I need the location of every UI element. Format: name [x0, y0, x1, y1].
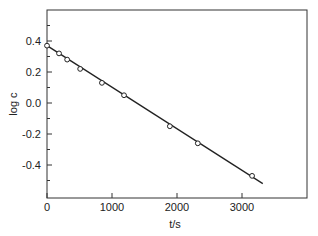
data-point	[195, 141, 200, 146]
y-axis-label: log c	[7, 92, 19, 116]
data-point	[78, 67, 83, 72]
x-tick-label: 3000	[230, 201, 254, 213]
y-tick-label: 0.0	[26, 97, 41, 109]
plot-border	[47, 10, 307, 198]
chart-container: 0.40.20.0-0.2-0.40100020003000 t/s log c	[0, 0, 318, 236]
y-tick-label: -0.2	[22, 128, 41, 140]
data-point	[250, 173, 255, 178]
x-tick-label: 0	[44, 201, 50, 213]
x-axis-label: t/s	[169, 218, 181, 230]
data-point	[65, 57, 70, 62]
data-point	[57, 51, 62, 56]
x-tick-label: 1000	[100, 201, 124, 213]
y-tick-label: 0.2	[26, 66, 41, 78]
data-point	[122, 93, 127, 98]
plot-frame	[47, 10, 307, 198]
data-point	[45, 43, 50, 48]
y-tick-label: -0.4	[22, 159, 41, 171]
y-tick-label: 0.4	[26, 35, 41, 47]
data-point	[100, 80, 105, 85]
data-point	[167, 124, 172, 129]
x-tick-label: 2000	[165, 201, 189, 213]
log-c-vs-time-plot: 0.40.20.0-0.2-0.40100020003000 t/s log c	[0, 0, 318, 236]
